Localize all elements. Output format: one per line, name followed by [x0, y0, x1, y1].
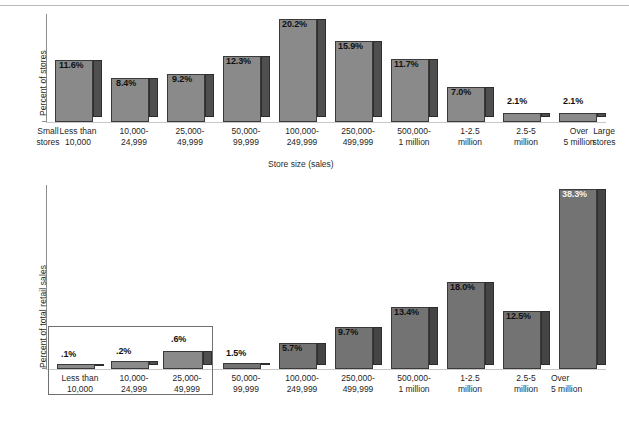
cat-label-bottom-5: 100,000- 249,999 — [273, 373, 331, 394]
bar-front — [279, 19, 317, 122]
cat-label-bottom-3: 25,000- 49,999 — [158, 373, 216, 394]
cat-label-top-5: 100,000- 249,999 — [273, 126, 331, 147]
bar-front — [111, 361, 149, 369]
bar-front — [447, 282, 485, 369]
top-chart-y-axis-label: Percent of stores — [38, 50, 48, 116]
bar-front — [57, 364, 95, 369]
cat-label-bottom-7: 500,000- 1 million — [385, 373, 443, 394]
bar-value-top-2: 8.4% — [116, 78, 136, 88]
cat-label-bottom-4: 50,000- 99,999 — [217, 373, 275, 394]
bar-value-bottom-4: 1.5% — [226, 348, 246, 358]
bar-side — [429, 59, 438, 117]
bar-front — [335, 41, 373, 122]
bar-value-top-8: 7.0% — [451, 87, 471, 97]
bar-value-bottom-10: 38.3% — [562, 189, 587, 199]
bar-side — [597, 189, 606, 365]
bar-value-bottom-3: .6% — [171, 334, 186, 344]
bar-value-top-4: 12.3% — [226, 56, 251, 66]
bar-bottom-3 — [163, 347, 213, 369]
bar-top-10 — [559, 108, 607, 122]
bar-side — [261, 56, 270, 117]
cat-label-top-8: 1-2.5 million — [441, 126, 499, 147]
bar-bottom-4 — [223, 359, 271, 369]
top-chart-x-axis-label: Store size (sales) — [268, 159, 334, 169]
bar-side — [541, 311, 550, 365]
bar-side — [373, 41, 382, 117]
bottom-chart-y-axis-label: Percent of total retail sales — [38, 265, 48, 368]
cat-label-top-4: 50,000- 99,999 — [217, 126, 275, 147]
cat-label-top-3: 25,000- 49,999 — [161, 126, 219, 147]
bar-side — [597, 113, 606, 117]
bar-value-bottom-7: 13.4% — [394, 307, 419, 317]
bar-value-top-6: 15.9% — [338, 41, 363, 51]
bar-value-top-9: 2.1% — [507, 96, 527, 106]
bar-side — [205, 74, 214, 117]
bar-value-bottom-2: .2% — [116, 346, 131, 356]
cat-label-bottom-9: 2.5-5 million — [497, 373, 555, 394]
bar-value-top-10: 2.1% — [563, 96, 583, 106]
cat-label-top-1: Less than 10,000 — [49, 126, 107, 147]
bar-side — [317, 343, 326, 365]
bar-side — [485, 282, 494, 365]
cat-label-top-10: Over 5 million — [545, 126, 613, 147]
cat-label-bottom-1: Less than 10,000 — [51, 373, 109, 394]
bar-value-top-3: 9.2% — [172, 74, 192, 84]
bar-value-top-1: 11.6% — [59, 60, 84, 70]
cat-label-top-6: 250,000- 499,999 — [329, 126, 387, 147]
bar-value-bottom-8: 18.0% — [450, 282, 475, 292]
cat-label-top-7: 500,000- 1 million — [385, 126, 443, 147]
bar-front — [163, 351, 203, 369]
bar-side — [261, 363, 270, 365]
bar-value-bottom-6: 9.7% — [338, 327, 358, 337]
bar-value-bottom-9: 12.5% — [506, 311, 531, 321]
bar-front — [223, 363, 261, 369]
bar-bottom-10 — [559, 185, 607, 369]
bar-side — [93, 60, 102, 117]
bar-side — [429, 307, 438, 365]
bar-side — [203, 351, 212, 365]
cat-label-bottom-2: 10,000- 24,999 — [105, 373, 163, 394]
bar-side — [373, 327, 382, 365]
bar-value-top-5: 20.2% — [282, 19, 307, 29]
cat-label-bottom-10: Over 5 million — [551, 373, 609, 394]
bar-side — [149, 361, 158, 365]
bar-value-bottom-5: 5.7% — [282, 343, 302, 353]
bar-value-bottom-1: .1% — [61, 349, 76, 359]
top-divider-rule — [0, 5, 629, 6]
bar-side — [541, 113, 550, 117]
bar-side — [485, 87, 494, 117]
top-chart-baseline — [46, 122, 606, 123]
cat-label-bottom-6: 250,000- 499,999 — [329, 373, 387, 394]
bar-side — [95, 364, 104, 366]
bar-bottom-1 — [57, 360, 105, 369]
bar-top-9 — [503, 108, 551, 122]
cat-label-top-2: 10,000- 24,999 — [105, 126, 163, 147]
bar-front — [559, 189, 597, 369]
bar-side — [317, 19, 326, 117]
cat-label-bottom-8: 1-2.5 million — [441, 373, 499, 394]
bar-top-5 — [279, 14, 327, 122]
bar-front — [503, 113, 541, 122]
bar-front — [559, 113, 597, 122]
chart-figure: Percent of stores Small stores Large sto… — [0, 0, 629, 421]
bar-side — [149, 78, 158, 117]
bar-value-top-7: 11.7% — [394, 59, 419, 69]
bar-bottom-2 — [111, 357, 159, 369]
